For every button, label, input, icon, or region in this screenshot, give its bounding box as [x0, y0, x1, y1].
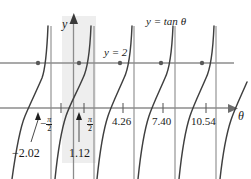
tick-label-4-26: 4.26 [112, 116, 131, 127]
tick-label-10-54: 10.54 [191, 116, 216, 127]
tangent-branch-4 [179, 26, 214, 179]
intersection-marker [200, 61, 204, 65]
fraction-numerator: π [46, 116, 52, 124]
intersection-marker [118, 61, 122, 65]
intersection-marker [36, 61, 40, 65]
intersection-marker [77, 61, 81, 65]
horizontal-line-label: y = 2 [104, 47, 127, 58]
fraction-pi-over-2: π2 [87, 116, 93, 134]
curve-equation-label: y = tan θ [146, 16, 186, 27]
intersection-marker [159, 61, 163, 65]
tick-label-pi-over-2: π2 [87, 116, 93, 134]
fraction-pi-over-2: π2 [46, 116, 52, 134]
callout-label-1-12: 1.12 [69, 147, 90, 159]
callout-leader-minus-2-02 [31, 120, 38, 142]
tick-label-minus-pi-over-2: −π2 [40, 116, 52, 134]
tangent-curve [12, 26, 247, 179]
fraction-denominator: 2 [46, 124, 52, 133]
theta-symbol: θ [181, 15, 186, 27]
y-axis-label: y [62, 18, 67, 30]
tangent-branch-5 [220, 82, 247, 179]
callout-label-minus-2-02: −2.02 [12, 147, 40, 159]
theta-axis-label: θ [238, 110, 244, 122]
tick-label-7-40: 7.40 [152, 116, 171, 127]
tangent-branch-3 [138, 26, 173, 179]
fraction-numerator: π [87, 116, 93, 124]
fraction-denominator: 2 [87, 124, 93, 133]
curve-equation-text: y = tan [146, 15, 178, 27]
tangent-function-figure: y θ y = tan θ y = 2 −π2 π2 4.26 7.40 10.… [0, 0, 251, 179]
